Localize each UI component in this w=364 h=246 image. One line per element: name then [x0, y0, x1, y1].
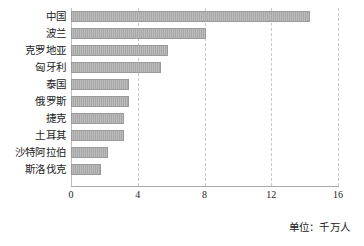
x-tick-label: 12 — [266, 189, 276, 200]
bar-row — [71, 110, 338, 127]
bar-row — [71, 76, 338, 93]
bar — [71, 11, 310, 22]
gridline — [338, 8, 339, 186]
category-label: 中国 — [0, 8, 66, 25]
bar — [71, 130, 124, 141]
x-tick-label: 8 — [202, 189, 207, 200]
category-label: 俄罗斯 — [0, 93, 66, 110]
bar-row — [71, 59, 338, 76]
bar — [71, 79, 129, 90]
bar — [71, 28, 206, 39]
category-label: 沙特阿拉伯 — [0, 144, 66, 161]
x-tick-label: 16 — [333, 189, 343, 200]
bar — [71, 96, 129, 107]
category-label: 匈牙利 — [0, 59, 66, 76]
bar — [71, 147, 108, 158]
bar — [71, 164, 101, 175]
bar — [71, 45, 168, 56]
unit-note: 单位：千万人 — [289, 219, 350, 234]
x-tick-label: 4 — [135, 189, 140, 200]
bar-row — [71, 144, 338, 161]
category-label: 斯洛伐克 — [0, 161, 66, 178]
category-axis-labels: 中国波兰克罗地亚匈牙利泰国俄罗斯捷克土耳其沙特阿拉伯斯洛伐克 — [0, 8, 66, 178]
x-axis-line — [71, 186, 339, 187]
bar-chart: 中国波兰克罗地亚匈牙利泰国俄罗斯捷克土耳其沙特阿拉伯斯洛伐克 0481216 单… — [0, 0, 364, 246]
category-label: 克罗地亚 — [0, 42, 66, 59]
category-label: 波兰 — [0, 25, 66, 42]
bar-series — [71, 8, 338, 186]
bar-row — [71, 93, 338, 110]
bar-row — [71, 8, 338, 25]
x-tick-label: 0 — [69, 189, 74, 200]
category-label: 泰国 — [0, 76, 66, 93]
bar-row — [71, 42, 338, 59]
bar — [71, 62, 161, 73]
bar-row — [71, 161, 338, 178]
bar-row — [71, 25, 338, 42]
bar — [71, 113, 124, 124]
category-label: 捷克 — [0, 110, 66, 127]
x-axis-tick-labels: 0481216 — [71, 189, 338, 205]
category-label: 土耳其 — [0, 127, 66, 144]
bar-row — [71, 127, 338, 144]
plot-area — [71, 8, 338, 186]
